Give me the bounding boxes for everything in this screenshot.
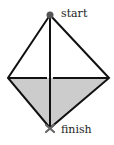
diamond-diagram: start finish — [0, 0, 114, 145]
finish-label: finish — [61, 123, 92, 136]
start-label: start — [61, 7, 88, 20]
start-marker-icon — [47, 12, 54, 19]
diagram-canvas: start finish — [0, 0, 114, 145]
